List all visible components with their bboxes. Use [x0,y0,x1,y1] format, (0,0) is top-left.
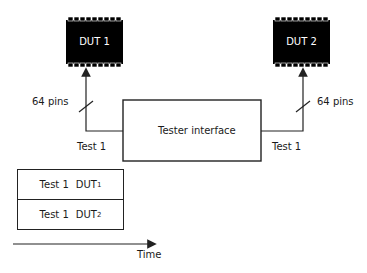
dut1-label: DUT 1 [66,37,123,47]
test-label-left: Test 1 [77,142,106,152]
dut2-label: DUT 2 [273,37,330,47]
bus-line-dut2 [261,72,303,131]
timeline-row-dut2-sub: 2 [97,211,101,219]
timeline-row-dut2: Test 1DUT2 [17,199,124,230]
tester-interface-label: Tester interface [158,126,236,136]
timeline-row-dut1: Test 1DUT1 [17,169,124,200]
bus-label-dut2: 64 pins [317,97,354,107]
timeline-row-dut2-dut: DUT [76,209,97,220]
time-axis-label: Time [137,250,161,260]
timeline-row-dut1-test: Test 1 [40,179,69,190]
timeline-row-dut1-sub: 1 [97,181,101,189]
timeline-row-dut1-dut: DUT [76,179,97,190]
bus-label-dut1: 64 pins [32,97,69,107]
timeline-row-dut2-test: Test 1 [40,209,69,220]
test-label-right: Test 1 [272,142,301,152]
